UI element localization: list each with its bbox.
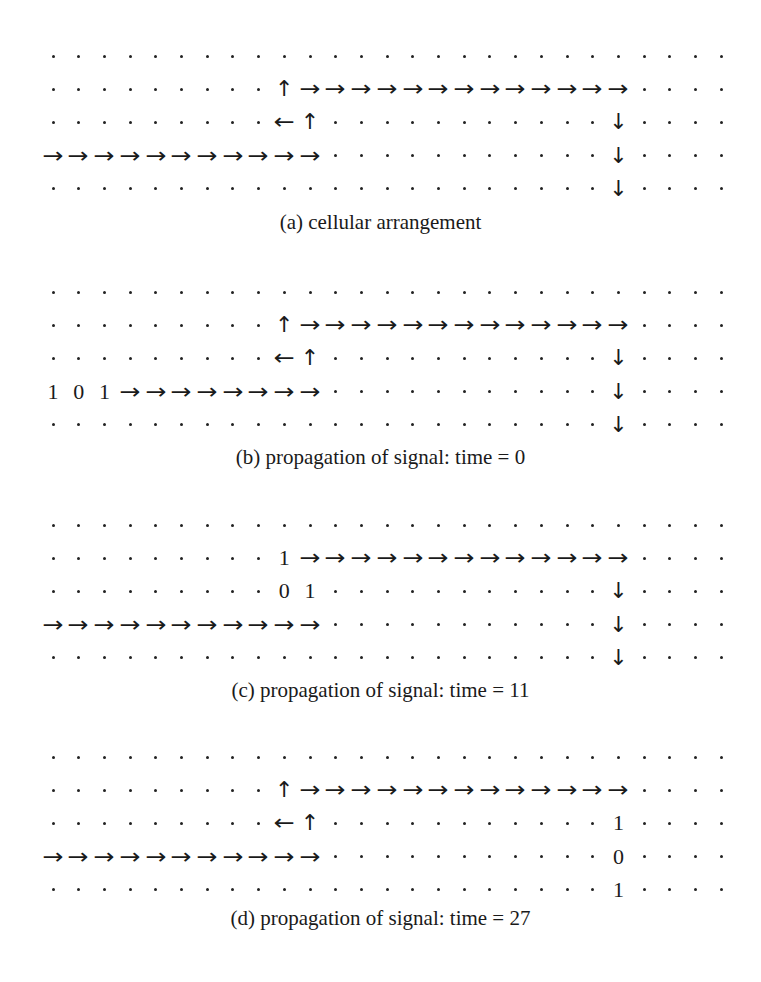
grid-cell bbox=[528, 808, 554, 838]
grid-cell bbox=[605, 277, 631, 307]
dot-icon bbox=[668, 187, 671, 190]
dot-icon bbox=[617, 756, 620, 759]
dot-icon bbox=[334, 357, 337, 360]
grid-cell bbox=[117, 875, 143, 905]
dot-icon bbox=[257, 88, 260, 91]
dot-icon bbox=[591, 855, 594, 858]
grid-cell bbox=[708, 643, 734, 673]
grid-cell bbox=[631, 643, 657, 673]
dot-icon bbox=[437, 524, 440, 527]
grid-cell bbox=[631, 808, 657, 838]
grid-cell: ↑ bbox=[271, 74, 297, 104]
dot-icon bbox=[514, 357, 517, 360]
right-arrow-icon: → bbox=[299, 145, 320, 167]
dot-icon bbox=[386, 524, 389, 527]
dot-icon bbox=[566, 623, 569, 626]
grid-cell bbox=[66, 277, 92, 307]
grid-cell bbox=[683, 410, 709, 440]
dot-icon bbox=[103, 888, 106, 891]
grid-cell bbox=[297, 875, 323, 905]
right-arrow-icon: → bbox=[42, 614, 63, 636]
grid-cell: → bbox=[528, 310, 554, 340]
dot-icon bbox=[617, 524, 620, 527]
grid-cell bbox=[708, 875, 734, 905]
dot-icon bbox=[437, 888, 440, 891]
grid-cell bbox=[143, 576, 169, 606]
grid-cell bbox=[91, 174, 117, 204]
dot-icon bbox=[411, 855, 414, 858]
grid-cell: → bbox=[374, 310, 400, 340]
grid-cell bbox=[657, 310, 683, 340]
grid-cell bbox=[194, 576, 220, 606]
grid-cell bbox=[40, 174, 66, 204]
dot-icon bbox=[668, 357, 671, 360]
right-arrow-icon: → bbox=[376, 78, 397, 100]
dot-icon bbox=[720, 121, 723, 124]
grid-cell bbox=[246, 74, 272, 104]
dot-icon bbox=[386, 55, 389, 58]
dot-icon bbox=[206, 357, 209, 360]
grid-cell bbox=[657, 808, 683, 838]
up-arrow-icon: ↑ bbox=[275, 314, 293, 336]
dot-icon bbox=[154, 55, 157, 58]
dot-icon bbox=[360, 187, 363, 190]
grid-cell bbox=[91, 343, 117, 373]
dot-icon bbox=[52, 590, 55, 593]
grid-cell: → bbox=[220, 377, 246, 407]
grid-cell bbox=[631, 510, 657, 540]
grid-cell bbox=[477, 343, 503, 373]
dot-icon bbox=[437, 623, 440, 626]
dot-icon bbox=[257, 756, 260, 759]
grid-cell bbox=[503, 742, 529, 772]
grid-cell bbox=[117, 410, 143, 440]
dot-icon bbox=[591, 822, 594, 825]
dot-icon bbox=[720, 291, 723, 294]
dot-icon bbox=[463, 623, 466, 626]
right-arrow-icon: → bbox=[428, 314, 449, 336]
grid-cell bbox=[40, 41, 66, 71]
dot-icon bbox=[206, 88, 209, 91]
right-arrow-icon: → bbox=[299, 614, 320, 636]
grid-cell bbox=[528, 510, 554, 540]
grid-cell bbox=[657, 775, 683, 805]
dot-icon bbox=[386, 623, 389, 626]
grid-cell: → bbox=[400, 543, 426, 573]
grid-cell bbox=[220, 174, 246, 204]
grid-cell bbox=[117, 543, 143, 573]
grid-cell bbox=[66, 310, 92, 340]
dot-icon bbox=[566, 822, 569, 825]
dot-icon bbox=[694, 524, 697, 527]
right-arrow-icon: → bbox=[531, 547, 552, 569]
grid-cell bbox=[297, 277, 323, 307]
grid-cell bbox=[503, 141, 529, 171]
grid-cell bbox=[631, 410, 657, 440]
dot-icon bbox=[309, 524, 312, 527]
grid-cell bbox=[117, 277, 143, 307]
grid-cell: → bbox=[348, 543, 374, 573]
grid-cell bbox=[246, 742, 272, 772]
dot-icon bbox=[411, 357, 414, 360]
grid-cell bbox=[631, 576, 657, 606]
grid-cell bbox=[657, 343, 683, 373]
dot-icon bbox=[77, 423, 80, 426]
dot-icon bbox=[283, 187, 286, 190]
dot-icon bbox=[52, 291, 55, 294]
dot-icon bbox=[334, 888, 337, 891]
dot-icon bbox=[257, 55, 260, 58]
dot-icon bbox=[360, 822, 363, 825]
dot-icon bbox=[668, 756, 671, 759]
dot-icon bbox=[283, 656, 286, 659]
dot-icon bbox=[411, 423, 414, 426]
right-arrow-icon: → bbox=[274, 145, 295, 167]
grid-cell bbox=[66, 775, 92, 805]
right-arrow-icon: → bbox=[556, 314, 577, 336]
dot-icon bbox=[180, 88, 183, 91]
grid-cell bbox=[246, 875, 272, 905]
dot-icon bbox=[309, 423, 312, 426]
grid-cell bbox=[451, 343, 477, 373]
grid-cell bbox=[451, 377, 477, 407]
grid-cell: → bbox=[580, 310, 606, 340]
grid-cell bbox=[91, 875, 117, 905]
dot-icon bbox=[540, 291, 543, 294]
dot-icon bbox=[463, 756, 466, 759]
